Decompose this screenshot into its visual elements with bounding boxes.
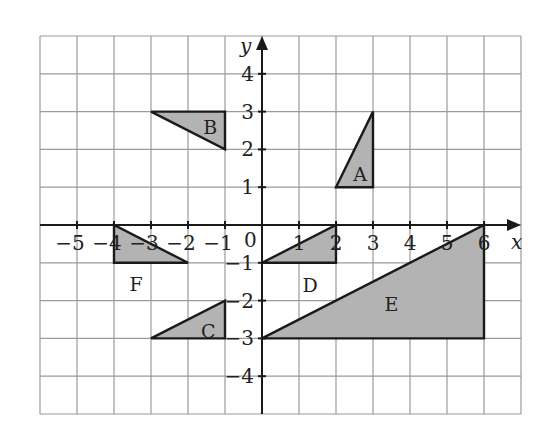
- y-axis-label: y: [239, 34, 252, 58]
- x-tick-label: 6: [478, 231, 491, 255]
- y-tick-label: −4: [225, 364, 254, 388]
- triangle-label-b: B: [203, 116, 217, 138]
- x-tick-label: 1: [293, 231, 306, 255]
- x-tick-label: 2: [330, 231, 343, 255]
- x-tick-label: −3: [129, 231, 158, 255]
- y-tick-label: 1: [241, 175, 254, 199]
- y-tick-label: 2: [241, 137, 254, 161]
- x-tick-label: 4: [404, 231, 417, 255]
- triangle-label-c: C: [201, 320, 216, 342]
- y-tick-label: −1: [225, 251, 254, 275]
- origin-label: 0: [244, 228, 257, 252]
- y-tick-label: −3: [225, 326, 254, 350]
- triangle-label-f: F: [130, 273, 143, 295]
- y-tick-label: −2: [225, 289, 254, 313]
- x-axis-label: x: [511, 230, 522, 254]
- x-tick-label: −5: [55, 231, 84, 255]
- x-tick-label: 3: [367, 231, 380, 255]
- x-tick-label: −2: [166, 231, 195, 255]
- triangle-label-a: A: [352, 163, 367, 185]
- y-tick-label: 4: [241, 62, 254, 86]
- axes: [40, 36, 521, 414]
- x-tick-label: −4: [92, 231, 121, 255]
- triangle-label-d: D: [302, 274, 317, 296]
- coordinate-grid: −5−4−3−2−11234564321−1−2−3−4 ABCDEF x y …: [0, 0, 543, 446]
- y-tick-label: 3: [241, 100, 254, 124]
- x-tick-label: 5: [441, 231, 454, 255]
- y-axis-arrow-icon: [256, 36, 268, 50]
- triangle-label-e: E: [385, 293, 399, 315]
